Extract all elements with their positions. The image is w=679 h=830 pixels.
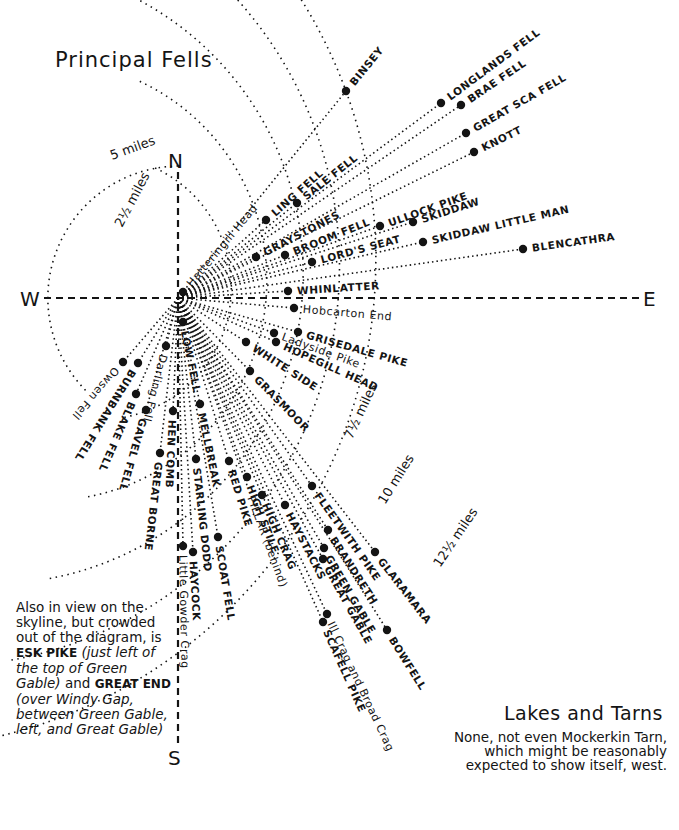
summit-dot <box>371 548 379 556</box>
summit-dot <box>462 129 470 137</box>
summit-dot <box>169 407 177 415</box>
summit-dot <box>519 245 527 253</box>
distance-ring-label: 5 miles <box>108 133 158 163</box>
summit-dot <box>457 101 465 109</box>
summit-dot <box>179 542 187 550</box>
compass-south: S <box>168 746 181 770</box>
distance-ring-label: 12½ miles <box>430 505 481 570</box>
note-intro: Also in view on the skyline, but crowded… <box>16 599 162 645</box>
summit-dot <box>324 526 332 534</box>
summit-dot <box>262 216 270 224</box>
lakes-text: None, not even Mockerkin Tarn, which mig… <box>427 730 667 772</box>
summit-dot <box>281 501 289 509</box>
summit-dot <box>179 318 187 326</box>
summit-dot <box>162 342 170 350</box>
summit-dot <box>243 473 251 481</box>
diagram-title: Principal Fells <box>55 48 213 72</box>
summit-dot <box>383 626 391 634</box>
summit-dot <box>156 449 164 457</box>
fell-label: Darling Fell <box>140 353 169 423</box>
fell-label: BLENCATHRA <box>531 230 616 254</box>
summit-dot <box>119 358 127 366</box>
summit-dot <box>284 287 292 295</box>
summit-dot <box>281 251 289 259</box>
summit-dot <box>290 304 298 312</box>
summit-dot <box>323 610 331 618</box>
summit-dot <box>320 544 328 552</box>
sight-line <box>178 298 298 332</box>
compass-west: W <box>20 287 40 311</box>
fell-label: SCOAT FELL <box>214 545 238 622</box>
summit-dot <box>342 87 350 95</box>
summit-dot <box>214 533 222 541</box>
note-fell-great-end: GREAT END <box>95 677 171 691</box>
summit-dot <box>270 329 278 337</box>
summit-dot <box>225 457 233 465</box>
summit-dot <box>134 359 142 367</box>
fell-label: HEN COMB <box>164 420 179 489</box>
fell-label: GLARAMARA <box>376 555 435 626</box>
summit-dot <box>246 367 254 375</box>
note-fell-esk-pike: ESK PIKE <box>16 646 77 660</box>
distance-ring-label: 10 miles <box>375 452 417 507</box>
summit-dot <box>272 338 280 346</box>
summit-dot <box>308 258 316 266</box>
distance-ring-label: 2½ miles <box>111 169 152 229</box>
fell-label: BINSEY <box>347 44 386 88</box>
summit-dot <box>437 99 445 107</box>
summit-dot <box>470 148 478 156</box>
summit-dot <box>132 390 140 398</box>
compass-east: E <box>643 287 656 311</box>
fell-label: Hatteringill Head <box>184 202 260 290</box>
summit-dot <box>192 455 200 463</box>
summit-dot <box>179 288 187 296</box>
sight-line <box>123 298 178 362</box>
lakes-heading: Lakes and Tarns <box>427 702 663 724</box>
panorama-diagram: 2½ miles5 miles7½ miles10 miles12½ miles… <box>0 0 679 830</box>
note-conjunction: and <box>65 675 90 691</box>
summit-dot <box>242 338 250 346</box>
summit-dot <box>196 400 204 408</box>
summit-dot <box>252 253 260 261</box>
fell-label: Little Gowder Crag <box>176 555 191 669</box>
note-great-end-desc: (over Windy Gap, between Green Gable, le… <box>16 691 168 737</box>
lakes-and-tarns-section: Lakes and Tarns None, not even Mockerkin… <box>427 702 667 772</box>
skyline-note: Also in view on the skyline, but crowded… <box>16 600 176 737</box>
summit-dot <box>419 238 427 246</box>
summit-dot <box>308 482 316 490</box>
fell-label: GREAT BORNE <box>143 461 165 551</box>
compass-north: N <box>168 149 183 173</box>
sight-line <box>178 105 461 298</box>
summit-dot <box>376 222 384 230</box>
fell-label: Hobcarton End <box>302 303 392 324</box>
fell-label: BOWFELL <box>387 634 429 692</box>
